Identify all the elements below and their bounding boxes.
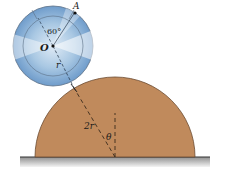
label-60-degrees: 60° bbox=[47, 27, 61, 36]
point-a bbox=[73, 11, 76, 14]
ground bbox=[20, 157, 210, 167]
center-point-o bbox=[51, 44, 54, 47]
diagram-canvas: 2r θ A O 60° r bbox=[0, 0, 225, 174]
disk: A O 60° r bbox=[11, 1, 95, 92]
label-o: O bbox=[40, 42, 49, 53]
label-2r: 2r bbox=[83, 121, 95, 131]
mound-shape bbox=[35, 77, 195, 157]
ground-shading bbox=[20, 157, 210, 167]
label-r: r bbox=[56, 60, 61, 70]
semicircular-mound: 2r θ bbox=[35, 77, 195, 157]
label-a: A bbox=[72, 1, 80, 11]
label-theta: θ bbox=[106, 132, 112, 142]
